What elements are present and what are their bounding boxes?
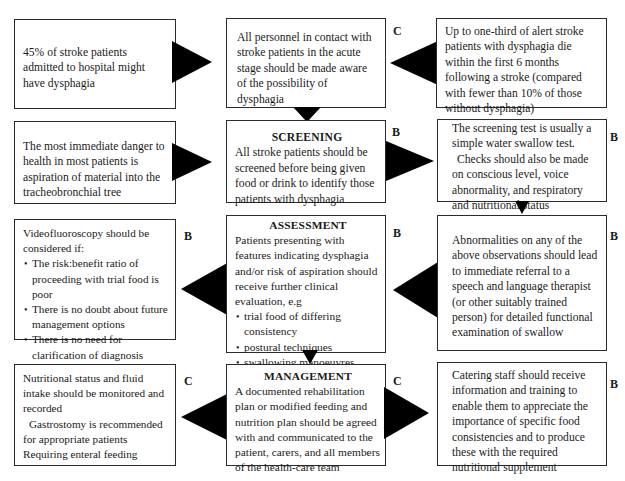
grade-label: B <box>184 229 192 244</box>
box-text: Abnormalities on any of the above observ… <box>452 234 597 339</box>
box-mortality-statistic: Up to one-third of alert stroke patients… <box>436 18 607 108</box>
list-item: There is no need for clarification of di… <box>23 332 169 362</box>
box-nutritional-monitoring: Nutritional status and fluid intake shou… <box>14 364 176 466</box>
box-text: A documented rehabilitation plan or modi… <box>235 385 380 473</box>
section-title-screening: SCREENING <box>235 130 379 145</box>
arrow-left-icon <box>393 262 438 318</box>
arrow-down-icon <box>515 201 529 214</box>
box-text: Patients presenting with features indica… <box>235 234 377 307</box>
grade-label: C <box>184 374 193 389</box>
box-text: All personnel in contact with stroke pat… <box>237 31 372 106</box>
box-assessment: ASSESSMENT Patients presenting with feat… <box>226 215 386 353</box>
grade-label: B <box>393 226 401 241</box>
grade-label: B <box>610 229 618 244</box>
box-text: 45% of stroke patients admitted to hospi… <box>23 46 145 90</box>
box-intro: Videofluoroscopy should be considered if… <box>23 227 149 254</box>
list-item: The risk:benefit ratio of proceeding wit… <box>23 256 169 302</box>
arrow-left-icon <box>181 393 229 441</box>
box-text: The most immediate danger to health in m… <box>23 140 165 199</box>
grade-label: B <box>610 377 618 392</box>
box-dysphagia-prevalence: 45% of stroke patients admitted to hospi… <box>14 19 176 109</box>
box-personnel-awareness: All personnel in contact with stroke pat… <box>226 18 386 108</box>
box-text-1: Nutritional status and fluid intake shou… <box>23 372 164 414</box>
list-item: There is no doubt about future managemen… <box>23 302 169 332</box>
arrow-right-icon <box>172 143 212 181</box>
arrow-right-icon <box>386 141 434 181</box>
grade-label: B <box>610 130 618 145</box>
criteria-list: The risk:benefit ratio of proceeding wit… <box>23 256 169 362</box>
box-aspiration-danger: The most immediate danger to health in m… <box>14 121 176 204</box>
arrow-left-icon <box>390 41 438 85</box>
box-text: Catering staff should receive informatio… <box>452 369 588 474</box>
grade-label: C <box>393 24 402 39</box>
box-text-1: The screening test is usually a simple w… <box>452 122 591 150</box>
box-screening: SCREENING All stroke patients should be … <box>226 120 386 203</box>
box-screening-test: The screening test is usually a simple w… <box>437 119 607 202</box>
arrow-down-icon <box>302 350 318 364</box>
box-text: All stroke patients should be screened b… <box>235 146 374 205</box>
box-abnormalities-referral: Abnormalities on any of the above observ… <box>437 215 607 351</box>
section-title-management: MANAGEMENT <box>235 369 381 384</box>
grade-label: B <box>392 125 400 140</box>
arrow-right-icon <box>384 387 429 439</box>
box-videofluoroscopy: Videofluoroscopy should be considered if… <box>14 219 176 340</box>
box-catering-staff: Catering staff should receive informatio… <box>437 362 607 466</box>
arrow-left-icon <box>181 262 229 316</box>
list-item: trial food of differing consistency <box>235 309 381 339</box>
arrow-right-icon <box>172 41 212 83</box>
box-management: MANAGEMENT A documented rehabilitation p… <box>226 364 386 466</box>
box-text: Up to one-third of alert stroke patients… <box>445 25 584 115</box>
section-title-assessment: ASSESSMENT <box>235 218 381 233</box>
box-text-2: Gastrostomy is recommended for appropria… <box>23 418 163 460</box>
